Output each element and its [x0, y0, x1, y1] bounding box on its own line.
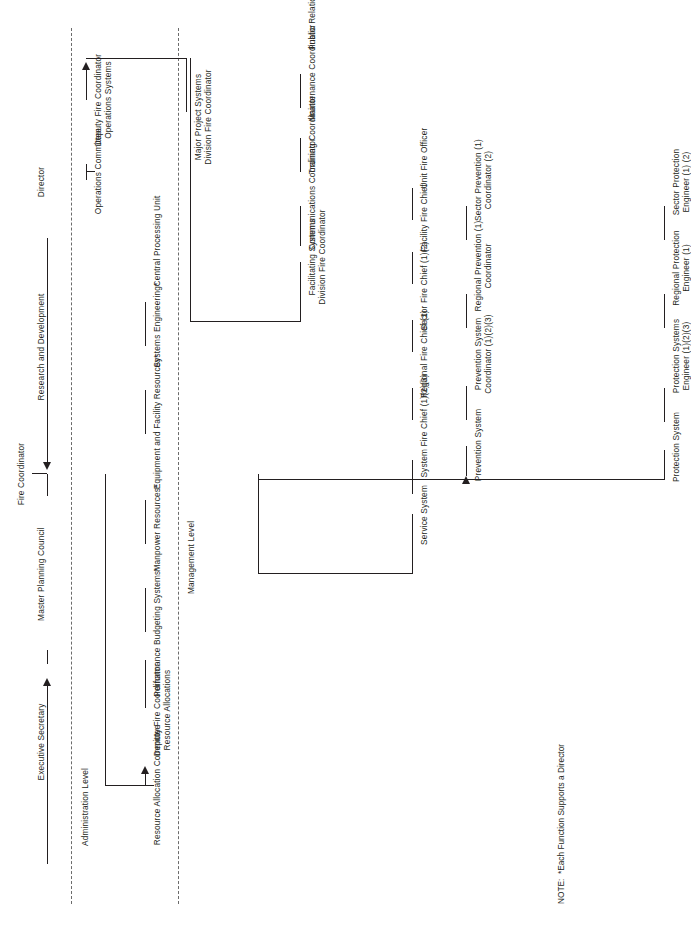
major-project-branch-line	[186, 58, 187, 112]
director-line	[47, 238, 48, 264]
prevention-system-branch-line	[466, 446, 467, 476]
director-label: Director	[36, 122, 46, 242]
protection-system-riser	[466, 479, 664, 480]
fire-coordinator-tick	[32, 473, 47, 474]
operations-deputy-line	[86, 68, 87, 100]
deputy-fire-coordinator-operations-label: Deputy Fire Coordinator Operations Syste…	[93, 0, 113, 208]
administration-branch-drop	[105, 785, 145, 786]
deputy-allocations-arrowhead	[141, 766, 149, 774]
master-planning-council-line	[47, 650, 48, 664]
administration-unit-central-processing: Central Processing Unit	[152, 170, 162, 312]
facilitating-unit-public-relations: Public Relations Coordinator	[307, 0, 317, 88]
protection-unit-line-3	[664, 206, 665, 240]
prevention-unit-sector: Sector Prevention (1) Coordinator (2)	[473, 90, 493, 270]
executive-secretary-line	[47, 684, 48, 864]
administration-unit-line-2	[145, 588, 146, 632]
administration-branch-top	[105, 474, 106, 786]
facilitating-branch-top	[190, 58, 191, 322]
service-unit-line-2	[412, 388, 413, 420]
operations-main-trunk	[86, 58, 186, 59]
administration-unit-line-5	[145, 302, 146, 346]
service-unit-line-4	[412, 252, 413, 284]
level-divider-dashed	[71, 28, 72, 904]
protection-unit-line-1	[664, 388, 665, 422]
prevention-unit-line-2	[466, 294, 467, 328]
master-planning-council-label: Master Planning Council	[36, 494, 46, 654]
administration-level-label: Administration Level	[80, 706, 90, 846]
service-unit-unit-fire-officer: Unit Fire Officer	[419, 90, 429, 226]
facilitating-branch-drop	[190, 321, 300, 322]
research-development-arrowhead	[43, 462, 51, 470]
service-unit-line-5	[412, 188, 413, 220]
administration-unit-line-3	[145, 500, 146, 544]
chart-note: NOTE: *Each Function Supports a Director	[556, 744, 566, 904]
service-unit-line-3	[412, 320, 413, 352]
executive-secretary-arrowhead	[43, 678, 51, 686]
research-and-development-label: Research and Development	[36, 252, 46, 442]
prevention-system-riser	[258, 479, 466, 480]
facilitating-unit-line-3	[300, 74, 301, 108]
fire-coordinator-label: Fire Coordinator	[16, 414, 26, 534]
protection-system-branch-line	[664, 450, 665, 480]
operations-deputy-arrowhead	[82, 62, 90, 70]
prevention-system-arrowhead	[462, 476, 470, 484]
administration-chain-line	[145, 774, 146, 786]
prevention-unit-line-1	[466, 386, 467, 420]
management-level-label: Management Level	[186, 454, 196, 594]
operations-committee-line	[86, 164, 87, 180]
research-development-line	[47, 262, 48, 462]
facilitating-unit-line-2	[300, 138, 301, 172]
service-system-branch-drop	[258, 573, 412, 574]
facilitating-branch-line	[300, 262, 301, 322]
protection-unit-line-2	[664, 294, 665, 328]
administration-unit-line-1	[145, 660, 146, 708]
service-unit-line-1	[412, 460, 413, 494]
prevention-unit-line-3	[466, 206, 467, 240]
facilitating-unit-line-1	[300, 206, 301, 246]
administration-unit-line-4	[145, 390, 146, 434]
major-project-systems-label: Major Project Systems Division Fire Coor…	[193, 2, 213, 232]
service-system-branch-line	[412, 514, 413, 574]
master-planning-council-line-right	[47, 474, 48, 496]
management-level-divider-dashed	[178, 28, 179, 904]
executive-secretary-label: Executive Secretary	[36, 662, 46, 822]
service-system-branch-top	[258, 474, 259, 574]
protection-unit-sector-engineer: Sector Protection Engineer (1) (2)	[671, 92, 691, 272]
